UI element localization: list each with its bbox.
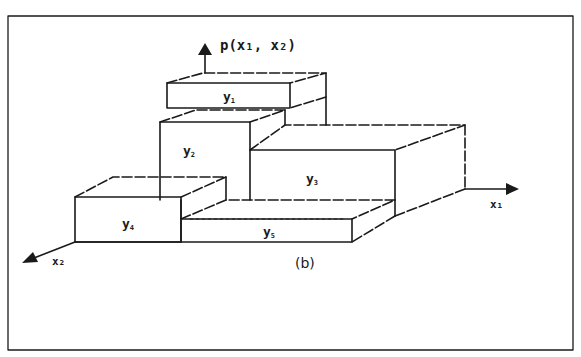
block-y3	[250, 125, 465, 216]
stepped-histogram-diagram: p(x₁, x₂) x₁ x₂ y1 y2 y3 y4 y5 (b)	[0, 0, 581, 357]
block-y2	[160, 110, 285, 200]
x1-axis-arrowhead-icon	[506, 183, 519, 195]
vertical-axis-label: p(x₁, x₂)	[220, 37, 296, 53]
x1-axis-label: x₁	[490, 198, 503, 211]
block-y5	[181, 200, 395, 242]
block-label-y1: y1	[223, 89, 235, 105]
figure-frame	[8, 16, 573, 350]
block-label-y4: y4	[122, 216, 134, 232]
vertical-axis-arrowhead-icon	[198, 43, 212, 55]
block-label-y3: y3	[306, 171, 318, 187]
block-label-y2: y2	[183, 143, 195, 159]
block-y1	[167, 73, 326, 125]
x2-axis-label: x₂	[52, 255, 65, 268]
figure-caption: (b)	[295, 255, 315, 271]
x2-axis-arrowhead-icon	[22, 252, 38, 263]
block-label-y5: y5	[263, 224, 275, 240]
block-y4	[75, 177, 226, 242]
